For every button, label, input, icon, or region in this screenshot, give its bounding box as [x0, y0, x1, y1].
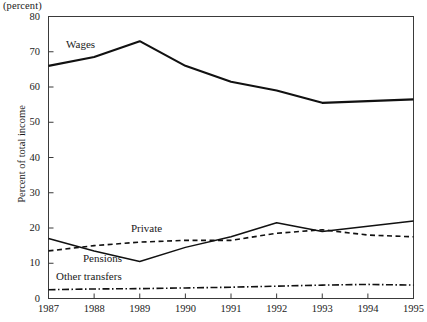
x-tick-label: 1995 — [391, 303, 427, 314]
y-tick-label: 30 — [14, 187, 40, 198]
series-label-private: Private — [131, 222, 162, 234]
series-line-private — [49, 230, 414, 251]
y-tick-label: 50 — [14, 116, 40, 127]
line-chart-figure: (percent) Percent of total income 807060… — [0, 0, 427, 322]
y-tick-label: 10 — [14, 257, 40, 268]
series-line-other-transfers — [49, 284, 414, 289]
x-tick-label: 1994 — [345, 303, 391, 314]
y-tick-label: 0 — [14, 293, 40, 304]
series-label-pensions: Pensions — [83, 252, 122, 264]
x-tick-label: 1987 — [26, 303, 72, 314]
x-tick-label: 1988 — [71, 303, 117, 314]
series-label-other-transfers: Other transfers — [56, 270, 122, 282]
x-tick-label: 1990 — [162, 303, 208, 314]
y-tick-label: 20 — [14, 222, 40, 233]
x-tick-label: 1989 — [117, 303, 163, 314]
y-tick-label: 40 — [14, 152, 40, 163]
x-tick-label: 1992 — [254, 303, 300, 314]
y-tick-label: 60 — [14, 81, 40, 92]
x-tick-label: 1991 — [208, 303, 254, 314]
series-line-wages — [49, 41, 414, 103]
y-tick-label: 70 — [14, 46, 40, 57]
series-label-wages: Wages — [66, 38, 95, 50]
x-tick-label: 1993 — [299, 303, 345, 314]
y-tick-label: 80 — [14, 11, 40, 22]
